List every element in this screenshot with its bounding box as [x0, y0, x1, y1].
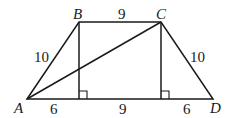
vertex-label-c: C: [156, 6, 167, 22]
trapezoid-outline: [27, 22, 213, 99]
vertex-label-a: A: [13, 100, 24, 116]
segment-label-foot-c-d: 6: [183, 101, 191, 117]
right-angle-mark-c: [161, 91, 169, 99]
segment-label-ab: 10: [34, 49, 49, 65]
right-angle-mark-b: [79, 91, 87, 99]
segment-label-a-foot-b: 6: [50, 101, 58, 117]
vertex-label-d: D: [209, 100, 221, 116]
segment-label-bc: 9: [118, 6, 126, 22]
trapezoid-diagram: A B C D 10 9 10 6 9 6: [0, 0, 230, 118]
vertex-label-b: B: [73, 6, 82, 22]
segment-label-foot-b-foot-c: 9: [119, 101, 127, 117]
segment-label-cd: 10: [190, 49, 205, 65]
